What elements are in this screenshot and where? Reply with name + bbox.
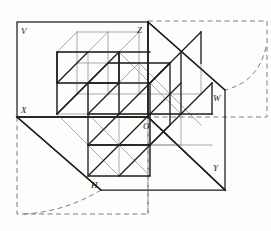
- lattice-lower-right-light-edges: [119, 94, 212, 145]
- lattice-upper-left-diagonals: [57, 83, 150, 114]
- label-origin: O: [143, 121, 150, 131]
- projection-diagram: V Z W X O H Y: [0, 0, 271, 231]
- h-plane-outline: [17, 117, 225, 190]
- lattice-right-vertical-risers: [119, 63, 201, 176]
- coordinate-planes-group: [17, 22, 225, 190]
- dashed-arc-top-right: [225, 47, 266, 90]
- label-v-plane: V: [21, 26, 28, 36]
- figure-container: V Z W X O H Y: [0, 0, 271, 231]
- y-axis-line: [148, 117, 225, 190]
- axes-emphasis-group: [17, 22, 225, 190]
- lattice-right-dark-risers: [181, 32, 212, 114]
- z-to-w-edge: [148, 22, 225, 90]
- label-y-axis: Y: [213, 163, 219, 173]
- dashed-frame-top-right: [148, 21, 267, 117]
- label-z-axis: Z: [137, 25, 143, 35]
- lattice-light-edges-group: [57, 32, 212, 176]
- label-x-axis: X: [20, 105, 27, 115]
- v-plane-outline: [17, 22, 148, 117]
- dashed-arc-bottom-left: [24, 190, 101, 214]
- lattice-dark-edges-group: [57, 32, 212, 176]
- label-h-plane: H: [90, 180, 98, 190]
- label-w-plane: W: [213, 93, 222, 103]
